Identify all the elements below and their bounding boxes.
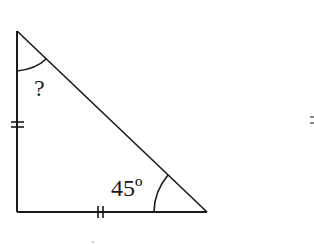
bottom-right-angle-arc: [154, 175, 168, 212]
bottom-right-angle-label: 45º: [111, 175, 143, 201]
top-angle-label: ?: [34, 75, 45, 101]
stray-equals-mark: [310, 117, 314, 123]
top-angle-arc: [17, 59, 46, 71]
speck: [92, 241, 94, 243]
triangle-diagram: ? 45º: [0, 0, 314, 244]
